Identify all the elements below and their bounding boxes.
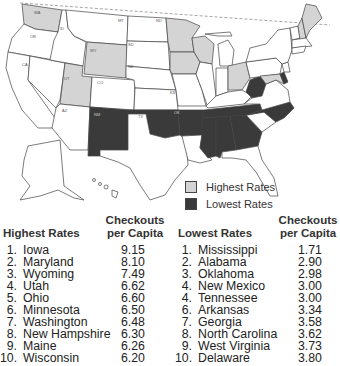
- highest-heading: Highest Rates: [3, 227, 80, 239]
- svg-text:OK: OK: [174, 110, 180, 115]
- legend-lowest-label: Lowest Rates: [206, 198, 273, 210]
- legend-highest-label: Highest Rates: [206, 181, 275, 193]
- us-choropleth-map: WA OR CA ID MT WY UT CO AZ NM TX ND SD N…: [0, 0, 340, 215]
- svg-text:SD: SD: [128, 42, 134, 47]
- state-nd: [127, 16, 168, 42]
- svg-text:OR: OR: [30, 34, 36, 39]
- svg-text:WY: WY: [90, 48, 97, 53]
- svg-text:UT: UT: [64, 76, 70, 81]
- legend-item-highest: Highest Rates: [185, 180, 275, 194]
- rank: 10.: [0, 352, 17, 364]
- lowest-rows: 1.Mississippi1.712.Alabama2.903.Oklahoma…: [170, 244, 340, 364]
- highest-swatch-icon: [185, 181, 197, 193]
- state-ar: [178, 110, 204, 136]
- svg-text:ID: ID: [60, 26, 64, 31]
- legend-item-lowest: Lowest Rates: [185, 197, 275, 211]
- rank: 10.: [175, 352, 192, 364]
- svg-text:NE: NE: [128, 64, 134, 69]
- table-row: 10.Wisconsin6.20: [0, 352, 170, 364]
- checkouts-value: 3.80: [298, 352, 322, 364]
- svg-text:CA: CA: [22, 62, 28, 67]
- svg-text:TX: TX: [138, 114, 143, 119]
- svg-text:MT: MT: [118, 18, 124, 23]
- state-me: [302, 4, 322, 38]
- state-name: Delaware: [198, 352, 250, 364]
- highest-rows: 1.Iowa9.152.Maryland8.103.Wyoming7.494.U…: [0, 244, 170, 364]
- checkouts-value: 6.20: [121, 352, 145, 364]
- svg-text:KS: KS: [170, 90, 176, 95]
- lowest-swatch-icon: [185, 198, 197, 210]
- map-legend: Highest Rates Lowest Rates: [185, 180, 275, 214]
- svg-text:ND: ND: [156, 18, 162, 23]
- state-ny: [246, 28, 292, 64]
- lowest-heading: Lowest Rates: [178, 227, 252, 239]
- lowest-value-heading: Checkouts per Capita: [278, 214, 338, 240]
- svg-text:WA: WA: [34, 10, 41, 15]
- svg-text:NM: NM: [94, 112, 100, 117]
- table-row: 10.Delaware3.80: [170, 352, 340, 364]
- state-in: [216, 68, 228, 96]
- svg-text:CO: CO: [97, 80, 103, 85]
- state-hi: [93, 179, 119, 199]
- state-name: Wisconsin: [23, 352, 79, 364]
- svg-text:AZ: AZ: [62, 108, 68, 113]
- highest-value-heading: Checkouts per Capita: [105, 214, 165, 240]
- state-ia: [170, 52, 200, 74]
